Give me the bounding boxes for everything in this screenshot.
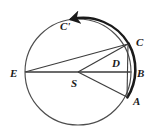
geometry-canvas: E S D B C A C' [0,0,157,137]
geometry-diagram: E S D B C A C' [0,0,157,137]
label-point-c-prime: C' [60,20,70,32]
label-point-a: A [132,95,140,107]
segment-s-a [78,72,127,97]
label-point-b: B [136,67,144,79]
segment-s-c [78,44,128,72]
label-center-s: S [71,77,77,89]
label-point-c: C [136,36,144,48]
label-point-d: D [111,57,120,69]
label-point-e: E [9,67,17,79]
